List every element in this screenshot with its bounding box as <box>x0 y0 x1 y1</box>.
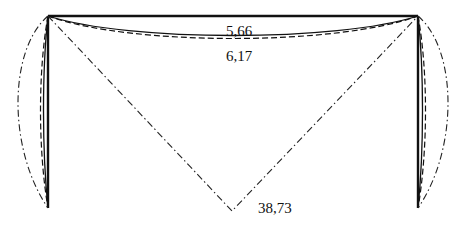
label-beam-solid-value: 5,66 <box>226 24 252 39</box>
dashed-deflection <box>41 16 426 208</box>
dashdot-beam-v <box>48 16 418 211</box>
label-peak-dashdot-value: 38,73 <box>258 201 292 216</box>
undeformed-frame <box>48 16 418 208</box>
label-beam-dashed-value: 6,17 <box>226 49 252 64</box>
solid-deflection <box>44 16 423 208</box>
dash-dot-deflection <box>18 16 448 211</box>
